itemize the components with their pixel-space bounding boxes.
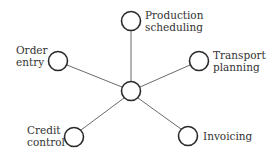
label-invoicing: Invoicing [203, 130, 252, 142]
label-line: Order [16, 44, 48, 56]
label-line: planning [213, 61, 266, 73]
label-order-entry: Order entry [16, 44, 48, 68]
label-line: Invoicing [203, 130, 252, 142]
label-credit-control: Credit control [27, 124, 65, 148]
label-line: control [27, 136, 65, 148]
line-transport [140, 65, 190, 87]
node-transport-planning [190, 52, 209, 71]
label-line: entry [16, 56, 48, 68]
line-invoicing [138, 98, 181, 129]
node-credit-control [65, 128, 84, 147]
node-order-entry [49, 52, 68, 71]
line-credit [81, 98, 124, 130]
label-line: Production [145, 9, 203, 21]
label-line: scheduling [145, 21, 203, 33]
label-line: Credit [27, 124, 65, 136]
label-production-scheduling: Production scheduling [145, 9, 203, 33]
hub-node [122, 82, 141, 101]
line-order [67, 65, 122, 87]
label-line: Transport [213, 49, 266, 61]
connector-lines [67, 31, 190, 130]
node-invoicing [179, 127, 198, 146]
node-production-scheduling [122, 12, 141, 31]
label-transport-planning: Transport planning [213, 49, 266, 73]
